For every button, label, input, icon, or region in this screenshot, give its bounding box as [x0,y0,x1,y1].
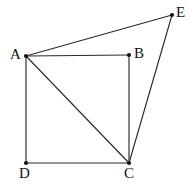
edge-ab [26,55,129,56]
edge-ac [26,56,129,163]
vertex-dot-b [127,53,131,57]
edge-ae [26,15,172,56]
vertex-dot-e [170,13,174,17]
edge-ec [129,15,172,163]
vertex-dot-a [24,54,28,58]
geometry-figure: ABCDE [0,0,191,191]
vertex-label-a: A [10,47,21,62]
vertex-label-c: C [124,166,134,181]
vertex-label-d: D [19,166,30,181]
edge-layer [26,15,172,163]
figure-svg [0,0,191,191]
vertex-label-b: B [134,46,144,61]
vertex-label-e: E [176,5,185,20]
